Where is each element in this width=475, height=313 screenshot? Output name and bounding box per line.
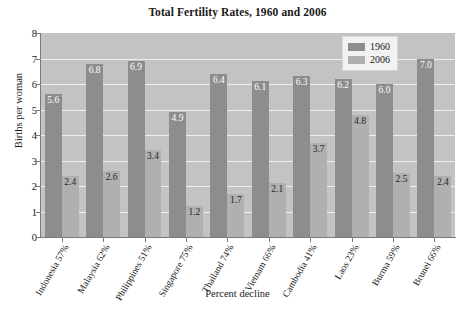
- bar-2006[interactable]: 1.7: [227, 194, 244, 237]
- bar-2006[interactable]: 2.1: [269, 183, 286, 237]
- x-tick-mark: [186, 238, 187, 242]
- x-tick-mark: [352, 238, 353, 242]
- chart-title: Total Fertility Rates, 1960 and 2006: [0, 6, 475, 18]
- bar-group: 6.12.1: [248, 33, 289, 237]
- y-tick-label: 1: [7, 206, 37, 217]
- bar-value-label: 6.2: [335, 80, 352, 91]
- x-tick-cell: Laos 23%: [331, 238, 372, 308]
- x-tick-cell: Philippines 51%: [124, 238, 165, 308]
- bar-1960[interactable]: 7.0: [417, 59, 434, 238]
- bar-group: 6.41.7: [207, 33, 248, 237]
- bar-group: 5.62.4: [41, 33, 82, 237]
- bar-2006[interactable]: 3.4: [145, 150, 162, 237]
- x-tick-label: Vietnam 66%: [243, 243, 278, 293]
- bar-value-label: 5.6: [45, 95, 62, 106]
- x-tick-label: Laos 23%: [332, 243, 360, 281]
- bar-value-label: 2.5: [393, 174, 410, 185]
- bar-group: 6.82.6: [82, 33, 123, 237]
- legend-label-2006: 2006: [370, 54, 390, 65]
- x-tick-mark: [434, 238, 435, 242]
- x-tick-label: Burma 59%: [370, 243, 401, 288]
- legend-swatch-1960: [348, 43, 365, 51]
- bar-value-label: 4.8: [352, 116, 369, 127]
- bar-group: 6.93.4: [124, 33, 165, 237]
- bar-value-label: 6.4: [210, 75, 227, 86]
- x-tick-cell: Indonesia 57%: [41, 238, 82, 308]
- bar-1960[interactable]: 6.1: [252, 81, 269, 237]
- bar-value-label: 1.7: [227, 195, 244, 206]
- x-tick-mark: [227, 238, 228, 242]
- bar-group: 7.02.4: [414, 33, 455, 237]
- y-axis-title: Births per woman: [13, 31, 24, 191]
- bar-group: 6.33.7: [289, 33, 330, 237]
- bar-1960[interactable]: 6.9: [128, 61, 145, 237]
- y-tick-label: 0: [7, 232, 37, 243]
- bar-group: 4.91.2: [165, 33, 206, 237]
- legend-item-1960[interactable]: 1960: [348, 40, 390, 53]
- x-tick-label: Brunei 66%: [412, 243, 443, 288]
- bar-value-label: 2.6: [103, 172, 120, 183]
- bar-value-label: 6.1: [252, 82, 269, 93]
- bar-value-label: 7.0: [417, 60, 434, 71]
- x-tick-mark: [62, 238, 63, 242]
- bar-value-label: 4.9: [169, 113, 186, 124]
- x-tick-mark: [269, 238, 270, 242]
- bar-1960[interactable]: 6.0: [376, 84, 393, 237]
- bar-2006[interactable]: 4.8: [352, 115, 369, 237]
- legend-swatch-2006: [348, 56, 365, 64]
- legend-item-2006[interactable]: 2006: [348, 53, 390, 66]
- bar-value-label: 2.4: [62, 177, 79, 188]
- bar-value-label: 6.0: [376, 85, 393, 96]
- bar-value-label: 2.4: [434, 177, 451, 188]
- bar-value-label: 2.1: [269, 184, 286, 195]
- x-axis-tick-labels: Indonesia 57%Malaysia 62%Philippines 51%…: [41, 238, 455, 308]
- x-tick-cell: Vietnam 66%: [248, 238, 289, 308]
- legend-label-1960: 1960: [370, 41, 390, 52]
- bar-1960[interactable]: 5.6: [45, 94, 62, 237]
- x-tick-cell: Brunei 66%: [414, 238, 455, 308]
- bar-value-label: 3.7: [310, 144, 327, 155]
- x-tick-mark: [310, 238, 311, 242]
- bar-1960[interactable]: 4.9: [169, 112, 186, 237]
- bar-value-label: 6.3: [293, 77, 310, 88]
- bar-2006[interactable]: 2.4: [62, 176, 79, 237]
- bar-2006[interactable]: 1.2: [186, 206, 203, 237]
- fertility-rates-chart: Total Fertility Rates, 1960 and 2006 012…: [0, 0, 475, 313]
- x-tick-label: Thailand 74%: [201, 243, 236, 294]
- bar-value-label: 3.4: [145, 151, 162, 162]
- bar-2006[interactable]: 3.7: [310, 143, 327, 237]
- x-tick-cell: Singapore 75%: [165, 238, 206, 308]
- x-tick-label: Indonesia 57%: [33, 243, 70, 297]
- x-tick-mark: [393, 238, 394, 242]
- bar-1960[interactable]: 6.8: [86, 64, 103, 237]
- x-tick-cell: Burma 59%: [372, 238, 413, 308]
- bar-2006[interactable]: 2.6: [103, 171, 120, 237]
- bar-value-label: 6.8: [86, 65, 103, 76]
- chart-legend: 1960 2006: [342, 36, 398, 71]
- bar-2006[interactable]: 2.5: [393, 173, 410, 237]
- x-tick-cell: Cambodia 41%: [289, 238, 330, 308]
- x-tick-mark: [103, 238, 104, 242]
- bar-2006[interactable]: 2.4: [434, 176, 451, 237]
- bar-1960[interactable]: 6.3: [293, 76, 310, 237]
- bar-value-label: 1.2: [186, 207, 203, 218]
- bar-1960[interactable]: 6.2: [335, 79, 352, 237]
- x-tick-cell: Thailand 74%: [207, 238, 248, 308]
- bar-1960[interactable]: 6.4: [210, 74, 227, 237]
- bar-value-label: 6.9: [128, 62, 145, 73]
